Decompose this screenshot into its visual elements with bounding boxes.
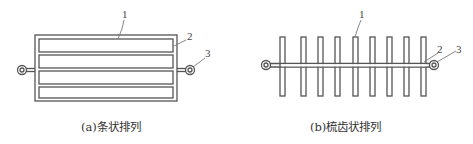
- strip-1: [39, 39, 173, 52]
- spine-channel: [281, 64, 427, 66]
- label-2: 2: [187, 30, 193, 42]
- figure-canvas: 1 2 3 (a)条状排列 1 2: [0, 0, 473, 144]
- strip-arrangement-diagram: 1 2 3 (a)条状排列: [18, 8, 212, 134]
- leader-line-1: [355, 20, 361, 37]
- strip-4: [39, 87, 173, 98]
- leader-line-1: [118, 20, 124, 39]
- label-1: 1: [122, 8, 128, 20]
- left-terminal-inner: [20, 68, 24, 72]
- label-2: 2: [437, 43, 443, 55]
- caption-b: (b)梳齿状排列: [310, 120, 381, 134]
- right-terminal-inner: [188, 68, 192, 72]
- caption-a: (a)条状排列: [81, 120, 141, 134]
- left-terminal-icon: [262, 61, 271, 70]
- label-3: 3: [456, 43, 462, 55]
- strip-2: [39, 55, 173, 68]
- label-3: 3: [205, 47, 211, 59]
- label-1: 1: [359, 8, 365, 20]
- leader-line-3: [193, 58, 205, 67]
- strip-3: [39, 71, 173, 84]
- left-terminal-inner: [264, 63, 268, 67]
- comb-arrangement-diagram: 1 2 3 (b)梳齿状排列: [262, 8, 463, 134]
- left-terminal-icon: [18, 66, 27, 75]
- right-terminal-inner: [432, 63, 436, 67]
- leader-line-2: [174, 40, 186, 46]
